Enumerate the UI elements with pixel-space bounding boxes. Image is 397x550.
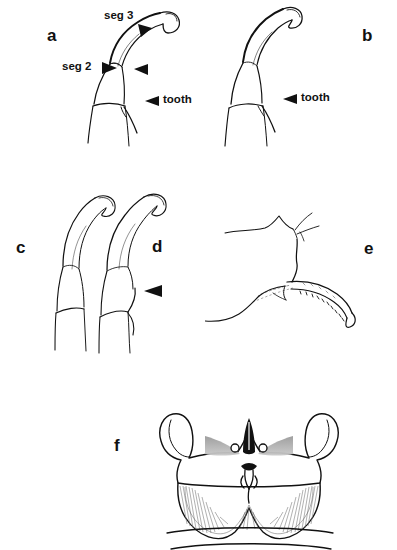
panel-f-drawing xyxy=(145,400,360,550)
seg-3-label: seg 3 xyxy=(104,10,133,22)
panel-letter-d: d xyxy=(152,238,162,255)
panel-letter-c: c xyxy=(16,239,25,256)
tooth-label-b: tooth xyxy=(301,92,330,104)
seg3-joint-arrowhead xyxy=(134,64,148,75)
panel-letter-b: b xyxy=(362,27,372,44)
seg-2-label: seg 2 xyxy=(62,61,91,73)
panel-a-annotations xyxy=(0,0,190,150)
panel-b-annotations xyxy=(215,0,385,150)
panel-d-annotations xyxy=(78,185,208,355)
tooth-arrowhead-a xyxy=(145,96,159,106)
tooth-arrowhead-b xyxy=(283,94,297,104)
tooth-label-a: tooth xyxy=(163,94,192,106)
seg-2-arrowhead xyxy=(102,62,117,74)
panel-letter-e: e xyxy=(364,240,373,257)
panel-letter-f: f xyxy=(114,437,120,454)
seg-3-arrowhead xyxy=(138,24,152,37)
tooth-arrowhead-d xyxy=(144,285,162,297)
panel-e-drawing xyxy=(205,190,380,355)
panel-letter-a: a xyxy=(47,27,56,44)
